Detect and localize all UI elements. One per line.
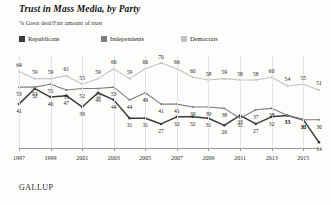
data-label: 61	[64, 66, 70, 72]
data-point	[34, 86, 36, 88]
data-point	[255, 79, 257, 81]
data-label: 46	[48, 101, 54, 107]
data-point	[129, 78, 131, 80]
data-label: 38	[221, 112, 227, 118]
data-point	[223, 107, 225, 109]
legend-item-republicans[interactable]: Republicans	[19, 35, 60, 42]
x-axis-tick	[303, 148, 304, 151]
data-point	[255, 123, 258, 126]
data-label: 51	[64, 94, 70, 100]
data-label: 44	[111, 104, 117, 110]
legend-swatch-icon	[181, 36, 187, 42]
data-label: 53	[32, 91, 38, 97]
x-axis-label: 2005	[139, 155, 151, 161]
legend-item-independents[interactable]: Independents	[101, 35, 144, 42]
data-label: 44	[127, 104, 133, 110]
data-label: 39	[206, 111, 212, 117]
x-axis-label: 1997	[13, 155, 25, 161]
legend-label: Democrats	[190, 35, 218, 42]
x-axis-label: 2003	[108, 155, 120, 161]
data-label: 59	[48, 69, 54, 75]
data-label: 38	[269, 112, 275, 118]
x-axis-tick	[208, 148, 209, 151]
data-label: 66	[111, 59, 117, 65]
gridline	[303, 56, 304, 148]
data-label: 31	[127, 122, 133, 128]
data-label: 60	[190, 68, 196, 74]
x-axis-label: 2015	[297, 155, 309, 161]
data-point	[318, 141, 321, 144]
x-axis-tick	[272, 148, 273, 151]
data-label: 59	[127, 69, 133, 75]
x-axis-tick	[82, 148, 83, 151]
data-label: 31	[206, 122, 212, 128]
x-axis-label: 1999	[45, 155, 57, 161]
legend-swatch-icon	[19, 36, 25, 42]
data-label: 41	[174, 108, 180, 114]
data-point	[97, 88, 99, 90]
data-label: 66	[143, 59, 149, 65]
data-label: 41	[16, 108, 22, 114]
data-label: 41	[158, 108, 164, 114]
data-label: 58	[206, 71, 212, 77]
data-label: 37	[253, 114, 259, 120]
data-point	[223, 124, 226, 127]
legend-label: Republicans	[28, 35, 60, 42]
x-axis-label: 2001	[76, 155, 88, 161]
data-point	[286, 85, 288, 87]
data-label: 51	[316, 80, 322, 86]
data-label: 33	[285, 119, 291, 125]
data-label: 47	[64, 100, 70, 106]
x-axis-tick	[114, 148, 115, 151]
x-axis-label: 2009	[202, 155, 214, 161]
x-axis-tick	[145, 148, 146, 151]
data-label: 32	[190, 121, 196, 127]
data-label: 39	[79, 111, 85, 117]
source-label: GALLUP	[19, 183, 54, 192]
data-label: 60	[269, 68, 275, 74]
data-label: 53	[16, 91, 22, 97]
data-label: 30	[316, 124, 322, 130]
page-title: Trust in Mass Media, by Party	[19, 4, 140, 14]
x-axis-tick	[19, 148, 20, 151]
data-point	[65, 75, 67, 77]
data-point	[255, 109, 257, 111]
x-axis-label: 2011	[234, 155, 246, 161]
data-label: 59	[32, 69, 38, 75]
data-label: 53	[111, 91, 117, 97]
data-label: 49	[143, 97, 149, 103]
data-label: 27	[253, 128, 259, 134]
chart-subtitle: % Great deal/Fair amount of trust	[19, 19, 102, 26]
x-axis-tick	[240, 148, 241, 151]
data-point	[65, 89, 67, 91]
x-axis-tick	[51, 148, 52, 151]
data-label: 26	[221, 129, 227, 135]
data-label: 32	[174, 121, 180, 127]
data-point	[160, 103, 162, 105]
data-point	[318, 89, 320, 91]
data-label: 31	[143, 122, 149, 128]
gridline	[19, 56, 20, 148]
data-point	[128, 117, 131, 120]
legend-swatch-icon	[101, 36, 107, 42]
legend-label: Independents	[110, 35, 144, 42]
data-label: 55	[300, 75, 306, 81]
data-label: 70	[158, 54, 164, 60]
data-label: 30	[300, 124, 306, 130]
x-axis-label: 2013	[266, 155, 278, 161]
data-label: 52	[95, 93, 101, 99]
x-axis-tick	[177, 148, 178, 151]
data-label: 54	[285, 76, 291, 82]
chart-page: Trust in Mass Media, by Party % Great de…	[0, 0, 331, 205]
gridline	[82, 56, 83, 148]
legend-item-democrats[interactable]: Democrats	[181, 35, 218, 42]
data-point	[286, 114, 288, 116]
data-point	[192, 76, 194, 78]
data-label: 32	[269, 121, 275, 127]
data-label: 27	[158, 128, 164, 134]
data-label: 58	[237, 71, 243, 77]
data-label: 59	[221, 69, 227, 75]
data-label: 66	[174, 59, 180, 65]
data-point	[192, 106, 194, 108]
data-label: 55	[79, 75, 85, 81]
